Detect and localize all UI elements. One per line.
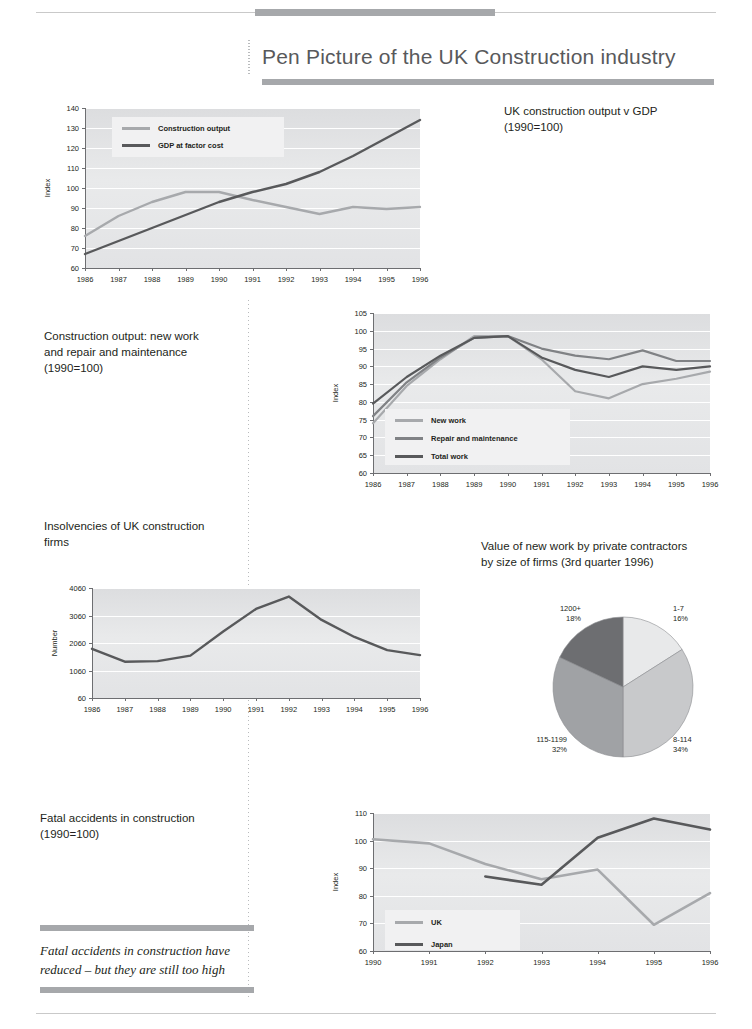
pie-slice-label-value: 18% xyxy=(519,614,581,624)
page-title-block: Pen Picture of the UK Construction indus… xyxy=(248,40,718,74)
legend-swatch-icon xyxy=(395,455,423,458)
legend-swatch-icon xyxy=(122,127,150,130)
pie-slice-label-name: 115-1199 xyxy=(505,735,567,745)
page-title: Pen Picture of the UK Construction indus… xyxy=(262,40,718,74)
top-accent-bar xyxy=(255,9,495,16)
series-layer xyxy=(325,805,715,975)
series-line xyxy=(485,819,710,885)
caption-fatal-line2: (1990=100) xyxy=(40,826,260,842)
chart-legend xyxy=(112,117,284,157)
title-underline-bar xyxy=(262,79,714,85)
caption-fatal: Fatal accidents in construction (1990=10… xyxy=(40,810,260,842)
chart-uk-output-v-gdp: 6070809010011012013014019861987198819891… xyxy=(40,100,425,290)
legend-label: Construction output xyxy=(158,124,230,133)
legend-label: New work xyxy=(431,416,466,425)
series-line xyxy=(85,192,420,236)
caption-newwork-line3: (1990=100) xyxy=(44,360,264,376)
legend-item: New work xyxy=(395,416,466,425)
series-line xyxy=(92,597,420,662)
legend-swatch-icon xyxy=(395,419,423,422)
caption-fatal-line1: Fatal accidents in construction xyxy=(40,810,260,826)
legend-label: UK xyxy=(431,918,442,927)
pie-slice-label-name: 8-114 xyxy=(673,735,733,745)
legend-swatch-icon xyxy=(122,144,150,147)
series-layer xyxy=(325,305,715,495)
pie-slice-label-value: 16% xyxy=(673,614,733,624)
series-layer xyxy=(40,580,425,720)
caption-pie: Value of new work by private contractors… xyxy=(481,538,741,570)
bottom-hairline-rule xyxy=(36,1013,716,1014)
legend-swatch-icon xyxy=(395,921,423,924)
pullquote-line2: reduced – but they are still too high xyxy=(40,960,272,979)
caption-insolvencies-line1: Insolvencies of UK construction xyxy=(44,518,264,534)
legend-item: GDP at factor cost xyxy=(122,141,223,150)
pullquote-line1: Fatal accidents in construction have xyxy=(40,941,272,960)
legend-label: GDP at factor cost xyxy=(158,141,223,150)
legend-label: Japan xyxy=(431,940,453,949)
legend-swatch-icon xyxy=(395,943,423,946)
caption-insolvencies-line2: firms xyxy=(44,534,264,550)
pie-slice-label-value: 32% xyxy=(505,745,567,755)
legend-label: Total work xyxy=(431,452,468,461)
chart-fatal-accidents: 6070809010011019901991199219931994199519… xyxy=(325,805,715,975)
legend-item: UK xyxy=(395,918,442,927)
title-dotted-marker xyxy=(248,40,250,76)
pullquote: Fatal accidents in construction have red… xyxy=(40,941,272,979)
pullquote-bottom-bar xyxy=(40,987,254,993)
pie-slice-label: 1-716% xyxy=(673,604,733,624)
caption-insolvencies: Insolvencies of UK construction firms xyxy=(44,518,264,550)
pie-slice-label-name: 1200+ xyxy=(519,604,581,614)
chart-new-work-repair: 6065707580859095100105198619871988198919… xyxy=(325,305,715,495)
caption-newwork-line1: Construction output: new work xyxy=(44,328,264,344)
pie-slice-label-value: 34% xyxy=(673,745,733,755)
series-line xyxy=(373,336,710,416)
legend-item: Repair and maintenance xyxy=(395,434,518,443)
caption-gdp-line1: UK construction output v GDP xyxy=(504,103,734,119)
chart-value-new-work-pie: 1-716%8-11434%115-119932%1200+18% xyxy=(505,592,725,777)
caption-pie-line2: by size of firms (3rd quarter 1996) xyxy=(481,554,741,570)
caption-newwork-line2: and repair and maintenance xyxy=(44,344,264,360)
pie-slice-label: 115-119932% xyxy=(505,735,567,755)
pie-slice-label: 1200+18% xyxy=(519,604,581,624)
pullquote-top-bar xyxy=(40,925,254,931)
caption-gdp-line2: (1990=100) xyxy=(504,119,734,135)
pie-slice-label-name: 1-7 xyxy=(673,604,733,614)
legend-item: Japan xyxy=(395,940,453,949)
pie-slice-label: 8-11434% xyxy=(673,735,733,755)
caption-gdp: UK construction output v GDP (1990=100) xyxy=(504,103,734,135)
caption-newwork: Construction output: new work and repair… xyxy=(44,328,264,376)
chart-insolvencies: 6010602060306040601986198719881989199019… xyxy=(40,580,425,720)
legend-item: Construction output xyxy=(122,124,230,133)
legend-label: Repair and maintenance xyxy=(431,434,518,443)
caption-pie-line1: Value of new work by private contractors xyxy=(481,538,741,554)
legend-swatch-icon xyxy=(395,437,423,440)
legend-item: Total work xyxy=(395,452,468,461)
